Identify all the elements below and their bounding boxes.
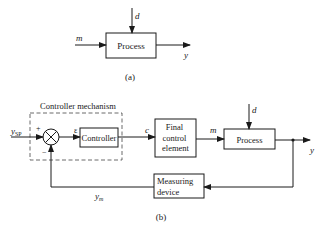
output-label-b: y (309, 145, 314, 155)
input-label-a: m (76, 33, 83, 43)
diagram-a: Process d m y (a) (75, 8, 190, 82)
manipulated-label: m (210, 125, 217, 135)
controller-output-label: c (145, 125, 149, 135)
diagram-b: Controller mechanism ySP + − ε Controlle… (10, 101, 314, 222)
caption-a: (a) (125, 72, 135, 82)
disturbance-label-b: d (252, 105, 257, 115)
measuring-device-label: Measuring device (157, 176, 195, 197)
feedback-path-to-sensor (204, 140, 293, 187)
plus-sign: + (36, 124, 41, 133)
controller-mechanism-label: Controller mechanism (40, 101, 116, 111)
summing-junction-icon (43, 129, 59, 145)
block-diagrams: Process d m y (a) Controller mechanism y… (0, 0, 325, 232)
process-label-a: Process (117, 41, 145, 51)
disturbance-label-a: d (135, 11, 140, 21)
feedback-path-to-junction (51, 145, 154, 187)
process-label-b: Process (237, 135, 263, 145)
final-control-element-label: Final control element (162, 122, 190, 153)
caption-b: (b) (156, 212, 167, 222)
minus-sign: − (42, 148, 47, 157)
measured-label: ym (94, 191, 104, 202)
error-label: ε (74, 126, 78, 135)
setpoint-label: ySP (10, 126, 22, 137)
controller-label: Controller (82, 133, 117, 143)
output-label-a: y (183, 50, 188, 60)
